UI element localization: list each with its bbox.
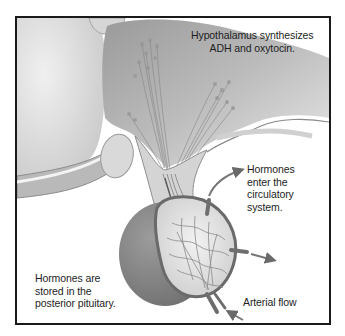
label-line: enter the — [247, 176, 295, 189]
brain-lobe — [17, 18, 106, 178]
diagram-frame: Hypothalamus synthesizes ADH and oxytoci… — [15, 16, 331, 325]
label-line: posterior pituitary. — [35, 297, 116, 310]
posterior-pituitary — [155, 197, 235, 297]
label-line: system. — [247, 201, 295, 214]
label-arterial-flow: Arterial flow — [243, 296, 297, 309]
label-circulatory: Hormones enter the circulatory system. — [247, 163, 295, 213]
label-line: Hypothalamus synthesizes — [191, 29, 314, 42]
label-line: circulatory — [247, 188, 295, 201]
label-hypothalamus: Hypothalamus synthesizes ADH and oxytoci… — [191, 29, 314, 54]
label-line: Arterial flow — [243, 296, 297, 309]
label-stored: Hormones are stored in the posterior pit… — [35, 272, 116, 310]
label-line: Hormones — [247, 163, 295, 176]
label-line: Hormones are — [35, 272, 116, 285]
label-line: stored in the — [35, 285, 116, 298]
label-line: ADH and oxytocin. — [191, 42, 314, 55]
